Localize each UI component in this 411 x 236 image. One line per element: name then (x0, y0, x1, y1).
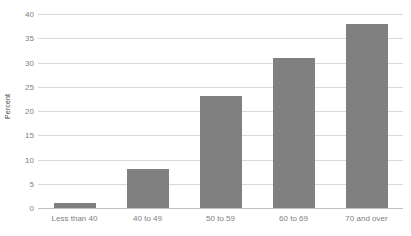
x-axis-tick-labels: Less than 4040 to 4950 to 5960 to 6970 a… (38, 210, 403, 230)
y-tick-label: 40 (25, 10, 34, 19)
bar-chart: Percent 0510152025303540 Less than 4040 … (0, 0, 411, 236)
bars-layer (38, 14, 403, 208)
y-tick-label: 5 (30, 179, 34, 188)
y-tick-label: 35 (25, 34, 34, 43)
bar (346, 24, 388, 208)
bar (54, 203, 96, 208)
y-tick-label: 30 (25, 58, 34, 67)
y-tick-label: 20 (25, 107, 34, 116)
bar (273, 58, 315, 208)
bar (200, 96, 242, 208)
y-axis-title-label: Percent (5, 93, 12, 118)
y-tick-label: 25 (25, 82, 34, 91)
axis-baseline (38, 208, 403, 209)
y-tick-label: 15 (25, 131, 34, 140)
x-tick-label: 70 and over (345, 214, 387, 223)
x-tick-label: 60 to 69 (279, 214, 308, 223)
y-tick-label: 10 (25, 155, 34, 164)
x-tick-label: 40 to 49 (133, 214, 162, 223)
bar (127, 169, 169, 208)
y-tick-label: 0 (30, 204, 34, 213)
x-tick-label: 50 to 59 (206, 214, 235, 223)
y-axis-tick-labels: 0510152025303540 (14, 14, 34, 208)
x-tick-label: Less than 40 (52, 214, 98, 223)
